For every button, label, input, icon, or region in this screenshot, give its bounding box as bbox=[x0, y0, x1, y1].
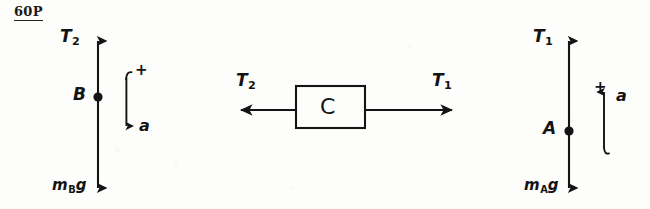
positive-direction-hook-right bbox=[604, 148, 609, 154]
positive-direction-hook-left bbox=[126, 72, 131, 79]
particle-dot-A bbox=[564, 126, 573, 135]
particle-dot-B bbox=[93, 92, 102, 101]
label-positive-sign-left: + bbox=[135, 63, 148, 78]
tension-subscript: 2 bbox=[248, 79, 256, 92]
right-diagram-group bbox=[564, 41, 609, 188]
label-positive-sign-right: + bbox=[594, 80, 607, 95]
label-weight-B: mBg bbox=[52, 178, 86, 195]
tension-subscript: 1 bbox=[545, 35, 553, 48]
gravity-symbol: g bbox=[76, 176, 87, 194]
tension-symbol: T bbox=[432, 70, 444, 90]
mass-symbol: m bbox=[52, 176, 68, 194]
tension-symbol: T bbox=[60, 26, 72, 46]
label-tension-T2-left: T2 bbox=[60, 28, 80, 47]
tension-symbol: T bbox=[236, 70, 248, 90]
label-point-A: A bbox=[543, 120, 556, 137]
label-acceleration-left: a bbox=[139, 118, 150, 134]
tension-subscript: 2 bbox=[72, 35, 80, 48]
mass-symbol: m bbox=[524, 176, 540, 194]
mass-subscript: B bbox=[68, 184, 76, 195]
label-tension-T1-middle: T1 bbox=[432, 72, 452, 91]
diagram-canvas: 60P bbox=[0, 0, 650, 209]
gravity-symbol: g bbox=[548, 176, 559, 194]
label-tension-T2-middle: T2 bbox=[236, 72, 256, 91]
label-weight-A: mAg bbox=[524, 178, 559, 195]
left-diagram-group bbox=[93, 41, 131, 188]
label-acceleration-right: a bbox=[616, 88, 627, 104]
middle-diagram-group bbox=[241, 86, 452, 128]
label-block-C: C bbox=[320, 96, 335, 118]
tension-symbol: T bbox=[533, 26, 545, 46]
mass-subscript: A bbox=[540, 184, 548, 195]
tension-subscript: 1 bbox=[444, 79, 452, 92]
label-tension-T1-right: T1 bbox=[533, 28, 553, 47]
label-point-B: B bbox=[73, 86, 86, 103]
